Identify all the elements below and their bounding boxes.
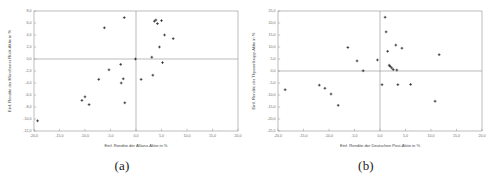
y-tick-label: 20,0 [268,21,275,25]
y-tick-label: 10,0 [268,45,275,49]
x-tick-label: 10,0 [428,134,435,138]
x-tick-label: 15,0 [453,134,460,138]
scatter-figure-pair: -20,0-15,0-10,0-5,00,05,010,015,020,08,0… [0,0,488,183]
y-tick-label: -12,0 [23,129,31,133]
y-tick-label: 2,0 [26,45,31,49]
x-tick-label: 0,0 [134,134,139,138]
x-axis-title: Einf. Rendite der Allianz-Aktie in % [104,143,167,148]
y-tick-label: -15,0 [267,105,275,109]
scatter-plot-b: -20,0-15,0-10,0-5,00,05,010,015,020,025,… [244,0,488,160]
caption-a: (a) [0,158,244,174]
x-tick-label: 0,0 [378,134,383,138]
x-tick-label: -5,0 [107,134,113,138]
y-tick-label: -10,0 [23,117,31,121]
y-axis-title: Einf. Rendite der Münchener Rück-Aktie i… [7,30,12,113]
y-tick-label: 0,0 [26,57,31,61]
x-tick-label: 20,0 [479,134,486,138]
y-axis-title: Einf. Rendite der Thyssenkrupp-Aktie in … [251,32,256,109]
x-tick-label: -15,0 [55,134,63,138]
x-tick-label: 5,0 [403,134,408,138]
y-tick-label: 15,0 [268,33,275,37]
x-tick-label: -10,0 [81,134,89,138]
x-tick-label: -15,0 [299,134,307,138]
y-tick-label: 8,0 [26,9,31,13]
x-tick-label: 15,0 [209,134,216,138]
x-tick-label: 20,0 [235,134,242,138]
y-tick-label: -8,0 [25,105,31,109]
y-tick-label: 0,0 [270,69,275,73]
y-tick-label: 6,0 [26,21,31,25]
y-tick-label: -2,0 [25,69,31,73]
y-tick-label: 5,0 [270,57,275,61]
x-tick-label: -10,0 [325,134,333,138]
y-tick-label: 4,0 [26,33,31,37]
x-tick-label: -5,0 [351,134,357,138]
y-tick-label: -6,0 [25,93,31,97]
x-tick-label: 5,0 [159,134,164,138]
x-axis-title: Einf. Rendite der Deutschen Post-Aktie i… [340,143,420,148]
scatter-plot-a: -20,0-15,0-10,0-5,00,05,010,015,020,08,0… [0,0,244,160]
y-tick-label: -4,0 [25,81,31,85]
y-tick-label: -25,0 [267,129,275,133]
panel-a: -20,0-15,0-10,0-5,00,05,010,015,020,08,0… [0,0,244,183]
x-tick-label: -20,0 [30,134,38,138]
panel-b: -20,0-15,0-10,0-5,00,05,010,015,020,025,… [244,0,488,183]
x-tick-label: 10,0 [184,134,191,138]
y-tick-label: -20,0 [267,117,275,121]
y-tick-label: -5,0 [269,81,275,85]
caption-b: (b) [244,158,488,174]
x-tick-label: -20,0 [274,134,282,138]
y-tick-label: 25,0 [268,9,275,13]
y-tick-label: -10,0 [267,93,275,97]
